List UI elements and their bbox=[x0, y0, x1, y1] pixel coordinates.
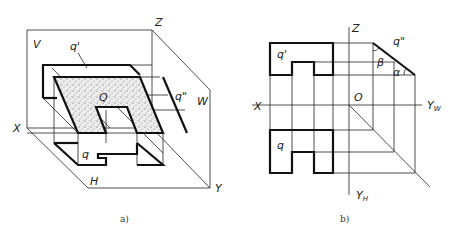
q-double-prime-projection-a bbox=[163, 77, 187, 133]
drawing-canvas: V Z W X H Y q' q" q Q a) Z bbox=[0, 0, 454, 232]
label-q: q bbox=[82, 148, 89, 161]
label-q-prime-b: q' bbox=[277, 48, 287, 61]
label-Q: Q bbox=[99, 91, 108, 104]
label-w: W bbox=[197, 95, 209, 108]
label-beta: β bbox=[376, 56, 384, 69]
label-h: H bbox=[90, 175, 98, 188]
h-plane-left-edge bbox=[27, 128, 88, 188]
label-alpha: α bbox=[393, 66, 401, 79]
label-q-prime: q' bbox=[70, 40, 80, 53]
caption-b: b) bbox=[340, 214, 349, 224]
w-plane-top-edge bbox=[152, 30, 210, 90]
q-plane-shaded bbox=[54, 77, 163, 133]
label-v: V bbox=[33, 38, 42, 51]
label-o: O bbox=[354, 91, 363, 104]
caption-a: a) bbox=[120, 214, 129, 224]
y-axis-line bbox=[152, 128, 210, 188]
beta-angle-arc bbox=[373, 48, 379, 51]
label-q-double-prime: q" bbox=[175, 90, 187, 103]
q-projection-a bbox=[54, 143, 137, 165]
label-yw: YW bbox=[427, 99, 442, 113]
label-x: X bbox=[12, 122, 21, 135]
label-z-b: Z bbox=[351, 22, 360, 35]
label-q-b: q bbox=[277, 139, 284, 152]
label-z: Z bbox=[154, 16, 163, 29]
label-q-double-prime-b: q" bbox=[393, 35, 405, 48]
label-yh: YH bbox=[356, 189, 369, 203]
miter-line-45deg bbox=[349, 105, 430, 187]
label-y: Y bbox=[215, 182, 223, 195]
alpha-angle-arc bbox=[404, 68, 406, 75]
label-x-b: X bbox=[253, 100, 262, 113]
